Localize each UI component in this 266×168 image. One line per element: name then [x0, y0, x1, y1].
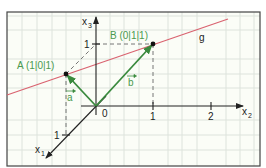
line-g-label: g	[199, 32, 205, 43]
svg-text:x: x	[82, 16, 87, 27]
point-b-label: B (0|1|1)	[110, 30, 148, 41]
svg-text:x: x	[242, 106, 247, 117]
x2-tick-1: 1	[150, 111, 156, 122]
point-a-label: A (1|0|1)	[17, 60, 54, 71]
svg-text:1: 1	[41, 150, 45, 157]
x2-tick-2: 2	[208, 111, 214, 122]
svg-text:2: 2	[248, 112, 252, 119]
vector-diagram: A (1|0|1) B (0|1|1) a b g 0 1 2 1 1 x 2 …	[0, 0, 266, 168]
point-a	[64, 72, 69, 77]
x1-tick-1: 1	[54, 130, 60, 141]
origin-label: 0	[102, 108, 108, 119]
point-b	[151, 42, 156, 47]
vector-b-label: b	[128, 77, 134, 88]
vector-a-label: a	[67, 92, 73, 103]
svg-text:3: 3	[88, 22, 92, 29]
x3-tick-1: 1	[84, 39, 90, 50]
svg-text:x: x	[35, 144, 40, 155]
